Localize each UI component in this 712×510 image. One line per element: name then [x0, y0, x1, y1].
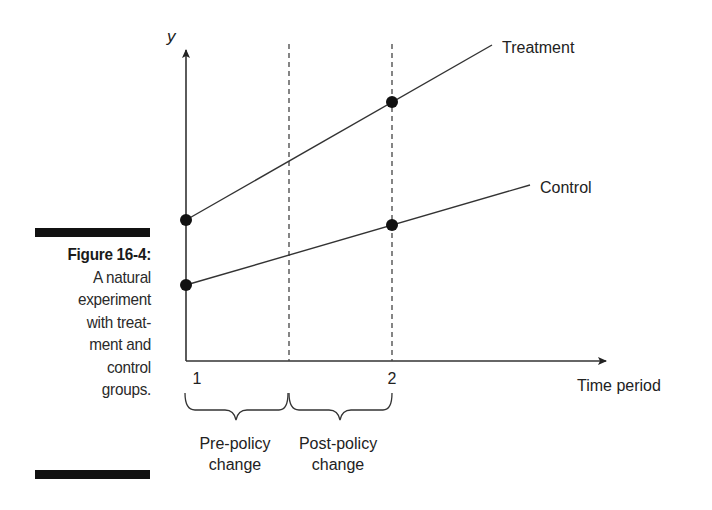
diagram: y Time period 1 2 Treatment Control Pre-…: [0, 0, 712, 510]
post-policy-label-line1: Post-policy: [299, 435, 377, 452]
treatment-point-1: [180, 214, 192, 226]
treatment-label: Treatment: [502, 39, 575, 56]
y-axis-label: y: [166, 27, 177, 46]
tick-1: 1: [193, 370, 202, 387]
x-axis-label: Time period: [577, 377, 661, 394]
control-point-1: [180, 279, 192, 291]
treatment-line: [186, 45, 492, 220]
control-point-2: [386, 219, 398, 231]
pre-policy-label-line2: change: [209, 456, 262, 473]
control-label: Control: [540, 179, 592, 196]
post-policy-brace: [289, 393, 392, 420]
control-line: [186, 185, 530, 285]
post-policy-label-line2: change: [312, 456, 365, 473]
pre-policy-label-line1: Pre-policy: [199, 435, 270, 452]
tick-2: 2: [388, 370, 397, 387]
pre-policy-brace: [185, 393, 288, 420]
treatment-point-2: [386, 96, 398, 108]
